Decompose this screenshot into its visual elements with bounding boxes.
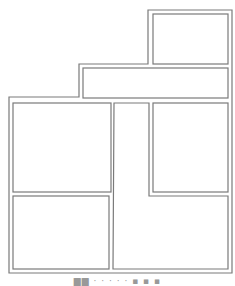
- panel-right-upper: [153, 103, 228, 192]
- panel-l-shaped-corridor: [113, 103, 228, 269]
- panel-top-right: [153, 14, 228, 64]
- figure-caption: ▆▆ · · · · · ▪ ▪ ▪: [0, 276, 235, 286]
- panel-left-lower: [13, 196, 109, 269]
- panel-left-upper: [13, 103, 111, 192]
- outer-outline: [9, 10, 232, 273]
- panel-middle-band: [83, 68, 228, 98]
